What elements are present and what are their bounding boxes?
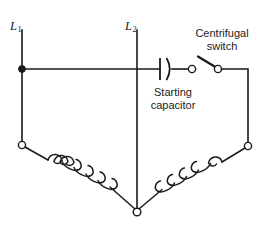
center-common-terminal-icon: [133, 208, 141, 216]
starting-capacitor-label: Starting capacitor: [134, 86, 212, 111]
capacitor-curved-plate-icon: [167, 58, 170, 80]
centrifugal-switch-label: Centrifugal switch: [179, 27, 265, 52]
right-winding-coil: [139, 148, 245, 209]
centrifugal-switch-label-line2: switch: [179, 40, 265, 53]
left-winding-coil: [25, 147, 135, 209]
switch-right-contact-icon: [214, 65, 221, 72]
line-1-label-text: L: [10, 19, 17, 33]
starting-capacitor-label-line2: capacitor: [134, 99, 212, 112]
line-2-label-subscript: 2: [132, 24, 136, 34]
circuit-diagram: L1 L2 Centrifugal switch Starting capaci…: [0, 0, 266, 231]
right-return-wire: [222, 69, 249, 143]
switch-left-contact-icon: [188, 65, 195, 72]
supply-junction-dot: [19, 66, 26, 73]
starting-capacitor-label-line1: Starting: [134, 86, 212, 99]
switch-blade-icon: [198, 57, 217, 69]
centrifugal-switch-label-line1: Centrifugal: [179, 27, 265, 40]
line-2-label: L2: [125, 19, 136, 33]
line-2-label-text: L: [125, 19, 132, 33]
line-1-label: L1: [10, 19, 21, 33]
line-1-label-subscript: 1: [17, 24, 21, 34]
